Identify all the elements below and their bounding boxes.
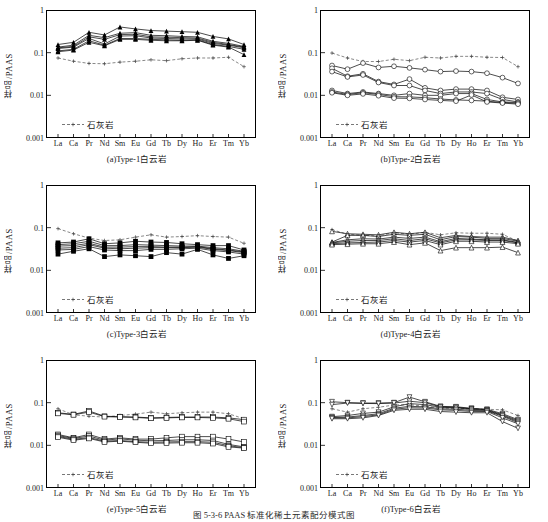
y-tick-label: 0.001 [300, 309, 318, 318]
y-tick-label: 0.1 [308, 398, 318, 407]
x-tick-label: Sm [115, 489, 126, 498]
legend-line-icon [62, 296, 84, 303]
y-tick-label: 0.01 [304, 266, 318, 275]
x-axis-ticks: LaCaPrNdSmEuGdTbDyHoErTmYb [320, 314, 530, 326]
legend-line-icon [62, 471, 84, 478]
x-tick-label: Eu [405, 314, 414, 323]
legend-label: 石灰岩 [87, 468, 114, 480]
x-tick-label: Tm [497, 139, 508, 148]
x-tick-label: Nd [374, 139, 384, 148]
x-tick-label: Yb [513, 489, 523, 498]
y-tick-label: 1 [314, 356, 318, 365]
y-tick-label: 0.1 [34, 398, 44, 407]
x-axis-ticks: LaCaPrNdSmEuGdTbDyHoErTmYb [46, 489, 256, 501]
y-tick-label: 0.01 [30, 91, 44, 100]
chart-panel-e: 样品/PAAS10.10.010.001石灰岩LaCaPrNdSmEuGdTbD… [0, 350, 274, 522]
x-tick-label: Tm [223, 139, 234, 148]
x-axis-ticks: LaCaPrNdSmEuGdTbDyHoErTmYb [320, 489, 530, 501]
legend-label: 石灰岩 [361, 293, 388, 305]
x-tick-label: Eu [131, 139, 140, 148]
x-tick-label: Sm [115, 314, 126, 323]
x-tick-label: Dy [451, 489, 461, 498]
y-axis-ticks: 10.10.010.001 [8, 185, 44, 313]
legend-label: 石灰岩 [87, 293, 114, 305]
data-series [332, 63, 518, 83]
x-tick-label: Dy [177, 489, 187, 498]
legend-line-icon [336, 121, 358, 128]
x-tick-label: La [328, 139, 336, 148]
subplot-caption-b: (b)Type-2白云岩 [274, 152, 548, 164]
chart-panel-f: 样品/PAAS10.10.010.001石灰岩LaCaPrNdSmEuGdTbD… [274, 350, 548, 522]
x-tick-label: Er [483, 489, 491, 498]
x-tick-label: Dy [451, 314, 461, 323]
y-tick-label: 1 [314, 6, 318, 15]
chart-panel-c: 样品/PAAS10.10.010.001石灰岩LaCaPrNdSmEuGdTbD… [0, 175, 274, 350]
x-tick-label: Ho [193, 139, 203, 148]
x-tick-label: La [54, 489, 62, 498]
x-tick-label: Nd [100, 489, 110, 498]
x-tick-label: Yb [513, 314, 523, 323]
y-axis-ticks: 10.10.010.001 [8, 360, 44, 488]
x-tick-label: Er [209, 314, 217, 323]
figure-panel-grid: 样品/PAAS10.10.010.001石灰岩LaCaPrNdSmEuGdTbD… [0, 0, 548, 522]
x-tick-label: Ca [343, 139, 352, 148]
x-tick-label: Pr [359, 139, 366, 148]
x-tick-label: Ca [69, 314, 78, 323]
legend: 石灰岩 [62, 468, 114, 480]
x-tick-label: Pr [359, 489, 366, 498]
x-tick-label: Tb [436, 489, 445, 498]
x-tick-label: Tb [162, 314, 171, 323]
x-tick-label: Nd [374, 314, 384, 323]
figure-caption: 图 5-3-6 PAAS 标准化稀土元素配分模式图 [0, 508, 548, 520]
y-axis-ticks: 10.10.010.001 [282, 360, 318, 488]
x-tick-label: Yb [239, 139, 249, 148]
x-tick-label: Gd [420, 314, 430, 323]
x-tick-label: Eu [131, 314, 140, 323]
y-axis-ticks: 10.10.010.001 [282, 10, 318, 138]
legend-label: 石灰岩 [361, 468, 388, 480]
x-axis-ticks: LaCaPrNdSmEuGdTbDyHoErTmYb [320, 139, 530, 151]
legend-label: 石灰岩 [361, 118, 388, 130]
x-tick-label: Er [483, 139, 491, 148]
y-tick-label: 0.1 [34, 48, 44, 57]
y-tick-label: 0.01 [30, 441, 44, 450]
subplot-caption-d: (d)Type-4白云岩 [274, 327, 548, 339]
y-tick-label: 0.01 [304, 91, 318, 100]
x-tick-label: Tb [162, 139, 171, 148]
x-tick-label: Ho [193, 489, 203, 498]
subplot-caption-c: (c)Type-3白云岩 [0, 327, 274, 339]
x-tick-label: Tb [162, 489, 171, 498]
x-tick-label: Dy [177, 314, 187, 323]
x-tick-label: Pr [85, 489, 92, 498]
y-tick-label: 0.01 [304, 441, 318, 450]
x-tick-label: Ca [343, 314, 352, 323]
x-tick-label: Tm [223, 314, 234, 323]
x-tick-label: Ho [467, 314, 477, 323]
y-tick-label: 0.01 [30, 266, 44, 275]
legend: 石灰岩 [62, 118, 114, 130]
x-tick-label: Nd [100, 139, 110, 148]
x-tick-label: Ca [343, 489, 352, 498]
x-tick-label: Gd [420, 139, 430, 148]
legend-line-icon [62, 121, 84, 128]
legend: 石灰岩 [336, 468, 388, 480]
x-tick-label: Ho [467, 139, 477, 148]
x-tick-label: Sm [389, 139, 400, 148]
x-tick-label: Gd [420, 489, 430, 498]
legend-line-icon [336, 296, 358, 303]
legend: 石灰岩 [336, 293, 388, 305]
x-tick-label: Sm [115, 139, 126, 148]
x-tick-label: Pr [359, 314, 366, 323]
x-tick-label: Nd [100, 314, 110, 323]
x-tick-label: Tm [497, 314, 508, 323]
x-tick-label: Dy [177, 139, 187, 148]
x-tick-label: Gd [146, 314, 156, 323]
chart-panel-a: 样品/PAAS10.10.010.001石灰岩LaCaPrNdSmEuGdTbD… [0, 0, 274, 175]
chart-panel-b: 样品/PAAS10.10.010.001石灰岩LaCaPrNdSmEuGdTbD… [274, 0, 548, 175]
x-tick-label: Ca [69, 489, 78, 498]
y-tick-label: 0.001 [26, 484, 44, 493]
x-tick-label: La [54, 139, 62, 148]
x-tick-label: La [328, 489, 336, 498]
x-tick-label: Eu [405, 489, 414, 498]
x-tick-label: Sm [389, 489, 400, 498]
